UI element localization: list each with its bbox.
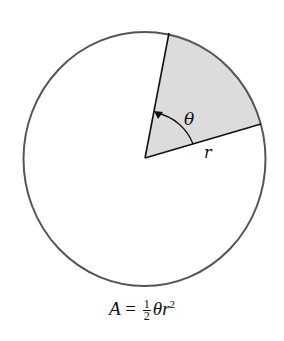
formula-fraction: 1 2	[143, 299, 151, 322]
sector-diagram: θ r	[0, 0, 284, 341]
formula-exponent: 2	[170, 298, 176, 310]
angle-label: θ	[184, 109, 194, 129]
formula-equals: =	[125, 298, 136, 319]
area-formula: A = 1 2 θr2	[0, 298, 284, 322]
formula-theta: θ	[153, 298, 162, 319]
shaded-sector	[145, 33, 261, 158]
radius-label: r	[204, 143, 213, 162]
formula-r: r	[162, 298, 169, 319]
fraction-denominator: 2	[143, 311, 151, 322]
formula-lhs: A	[109, 298, 121, 319]
